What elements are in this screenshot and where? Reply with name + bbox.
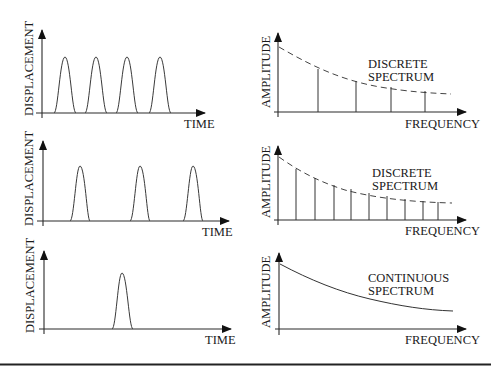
pulse bbox=[112, 273, 133, 329]
spectrum-label-line2: SPECTRUM bbox=[368, 70, 434, 84]
spectrum-plot-row3: AMPLITUDE FREQUENCY CONTINUOUS SPECTRUM bbox=[259, 253, 480, 347]
pulse bbox=[70, 166, 90, 221]
x-axis-label: FREQUENCY bbox=[405, 333, 480, 347]
spectrum-label-line2: SPECTRUM bbox=[372, 179, 438, 193]
y-axis-label: AMPLITUDE bbox=[259, 255, 273, 328]
spectrum-label-line1: CONTINUOUS bbox=[368, 271, 449, 285]
spectrum-label-line2: SPECTRUM bbox=[368, 284, 434, 298]
y-axis-label: AMPLITUDE bbox=[259, 35, 273, 108]
time-plot-row2: DISPLACEMENT TIME bbox=[22, 130, 233, 239]
x-axis-label: FREQUENCY bbox=[405, 224, 480, 238]
diagram-canvas: DISPLACEMENT TIME AMPLITUDE FREQUENCY DI… bbox=[0, 0, 491, 368]
pulse bbox=[183, 166, 203, 221]
spectrum-label-line1: DISCRETE bbox=[368, 57, 428, 71]
x-axis-label: FREQUENCY bbox=[405, 117, 480, 131]
time-plot-row1: DISPLACEMENT TIME bbox=[22, 20, 215, 131]
time-plot-row3: DISPLACEMENT TIME bbox=[23, 237, 236, 347]
pulse bbox=[149, 57, 171, 113]
spectrum-plot-row1: AMPLITUDE FREQUENCY DISCRETE SPECTRUM bbox=[259, 33, 480, 131]
pulse bbox=[130, 166, 150, 221]
x-axis-label: TIME bbox=[205, 333, 236, 347]
spectrum-plot-row2: AMPLITUDE FREQUENCY DISCRETE SPECTRUM bbox=[259, 145, 480, 238]
pulse bbox=[116, 57, 138, 113]
x-axis-label: TIME bbox=[184, 117, 215, 131]
pulse bbox=[85, 57, 107, 113]
x-axis-label: TIME bbox=[202, 225, 233, 239]
pulse bbox=[54, 57, 76, 113]
y-axis-label: AMPLITUDE bbox=[259, 145, 273, 218]
y-axis-label: DISPLACEMENT bbox=[23, 237, 37, 333]
spectrum-label-line1: DISCRETE bbox=[372, 166, 432, 180]
y-axis-label: DISPLACEMENT bbox=[22, 20, 36, 116]
y-axis-label: DISPLACEMENT bbox=[22, 130, 36, 226]
